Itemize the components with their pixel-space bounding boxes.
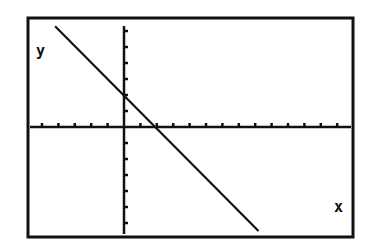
- x-axis-label: x: [334, 200, 343, 215]
- graph-plot: [0, 0, 371, 252]
- axes: [30, 26, 351, 234]
- y-axis-label: y: [36, 44, 45, 59]
- data-line: [55, 26, 258, 231]
- series-line: [55, 26, 258, 231]
